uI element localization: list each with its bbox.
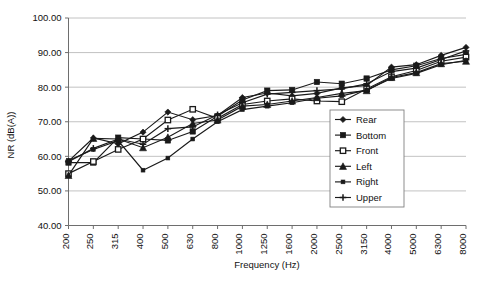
data-series (65, 44, 470, 178)
x-tick-label: 400 (134, 234, 145, 250)
data-point-marker (439, 63, 443, 67)
nr-frequency-line-chart: 100.0090.0080.0070.0060.0050.0040.00 200… (0, 0, 483, 282)
data-point-marker (165, 117, 170, 122)
data-point-marker (315, 96, 319, 100)
data-point-marker (165, 125, 172, 132)
x-tick-label: 250 (84, 234, 95, 250)
x-tick-label: 3150 (358, 234, 369, 255)
series-line (69, 60, 467, 170)
y-tick-label: 70.00 (38, 116, 62, 127)
legend-item-label: Front (356, 145, 379, 156)
data-point-marker (390, 77, 394, 81)
data-point-marker (290, 101, 294, 105)
x-tick-label: 2000 (308, 234, 319, 255)
chart-container: 100.0090.0080.0070.0060.0050.0040.00 200… (0, 0, 483, 282)
data-point-marker (216, 120, 220, 124)
legend[interactable]: RearBottomFrontLeftRightUpper (330, 110, 404, 207)
y-tick-label: 90.00 (38, 47, 62, 58)
series-bottom (66, 52, 469, 166)
y-tick-label: 50.00 (38, 185, 62, 196)
data-point-marker (164, 134, 171, 141)
data-point-marker (241, 108, 245, 112)
x-tick-label: 1600 (283, 234, 294, 255)
data-point-marker (115, 147, 120, 152)
data-point-marker (464, 58, 468, 62)
x-tick-label: 8000 (457, 234, 468, 255)
data-point-marker (414, 71, 418, 75)
y-tick-label: 40.00 (38, 220, 62, 231)
series-line (69, 61, 467, 175)
x-tick-label: 4000 (382, 234, 393, 255)
data-point-marker (166, 156, 170, 160)
data-point-marker (340, 94, 344, 98)
y-axis-tick-labels: 100.0090.0080.0070.0060.0050.0040.00 (32, 12, 61, 231)
gridlines (69, 18, 467, 226)
y-tick-label: 100.00 (32, 12, 61, 23)
series-right (67, 58, 468, 172)
caption-strip (0, 272, 483, 282)
series-left (65, 58, 470, 179)
x-tick-label: 1250 (258, 234, 269, 255)
legend-item-label: Upper (356, 192, 382, 203)
axes (65, 18, 466, 229)
legend-item-label: Left (356, 161, 372, 172)
y-tick-label: 60.00 (38, 151, 62, 162)
x-tick-label: 315 (109, 234, 120, 250)
x-tick-label: 5000 (407, 234, 418, 255)
legend-item-label: Bottom (356, 130, 386, 141)
data-point-marker (265, 104, 269, 108)
data-point-marker (141, 168, 145, 172)
data-point-marker (314, 79, 319, 84)
legend-item-label: Rear (356, 114, 377, 125)
data-point-marker (190, 107, 195, 112)
x-tick-label: 800 (209, 234, 220, 250)
x-tick-label: 500 (159, 234, 170, 250)
legend-swatch-marker (340, 148, 345, 153)
data-point-marker (91, 159, 96, 164)
x-tick-label: 200 (60, 234, 71, 250)
data-point-marker (339, 99, 344, 104)
y-axis-title: NR (dB(A)) (5, 112, 16, 159)
legend-swatch-marker (340, 132, 345, 137)
x-axis-tick-labels: 2002503154005006308001000125016002000250… (60, 234, 469, 255)
data-point-marker (191, 137, 195, 141)
x-tick-label: 1000 (233, 234, 244, 255)
x-tick-label: 2500 (333, 234, 344, 255)
series-front (66, 54, 469, 176)
x-tick-label: 6300 (432, 234, 443, 255)
legend-item-label: Right (356, 176, 379, 187)
legend-swatch-marker (341, 180, 345, 184)
x-tick-label: 630 (184, 234, 195, 250)
x-axis-title: Frequency (Hz) (234, 259, 299, 270)
y-tick-label: 80.00 (38, 82, 62, 93)
series-line (69, 54, 467, 162)
data-point-marker (365, 88, 369, 92)
